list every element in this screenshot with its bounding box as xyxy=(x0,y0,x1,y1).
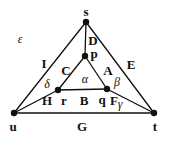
node-t xyxy=(151,110,157,116)
vertex-label-u: u xyxy=(9,120,16,133)
edge-B xyxy=(58,89,107,90)
edge-label-E: E xyxy=(127,58,136,71)
vertex-label-r: r xyxy=(61,94,67,107)
edge-D xyxy=(85,22,86,56)
edge-label-D: D xyxy=(88,34,97,47)
angle-label-alpha: α xyxy=(82,73,88,85)
angle-label-gamma: γ xyxy=(118,98,123,110)
edge-label-A: A xyxy=(103,64,112,77)
vertex-label-q: q xyxy=(98,93,105,106)
edge-label-I: I xyxy=(41,57,46,70)
vertex-label-p: p xyxy=(90,47,97,60)
edge-label-B: B xyxy=(80,94,89,107)
vertex-label-t: t xyxy=(153,120,157,133)
angle-label-beta: β xyxy=(114,76,120,88)
diagram-canvas: sprqutDIECABHFGαβγδε xyxy=(0,0,169,143)
edge-label-C: C xyxy=(61,64,70,77)
edge-label-H: H xyxy=(42,94,52,107)
edge-label-G: G xyxy=(77,120,87,133)
angle-label-delta: δ xyxy=(44,78,50,90)
node-s xyxy=(83,19,89,25)
angle-label-epsilon: ε xyxy=(18,33,23,45)
node-p xyxy=(82,53,88,59)
vertex-label-s: s xyxy=(83,5,88,18)
node-u xyxy=(11,110,17,116)
